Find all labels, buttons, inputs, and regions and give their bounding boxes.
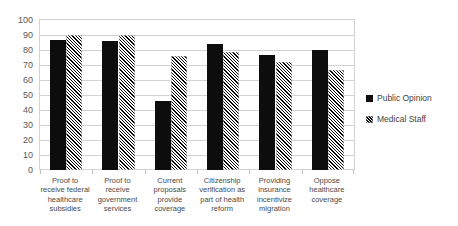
legend-item: Medical Staff	[366, 114, 458, 124]
solid-square-icon	[366, 95, 373, 102]
bar-medical-staff	[171, 56, 187, 170]
category-label: Citizenship verification as part of heal…	[197, 176, 247, 214]
y-axis-tick-label: 20	[23, 136, 33, 145]
x-axis-tick	[40, 170, 41, 174]
bar-medical-staff	[328, 70, 344, 171]
bar-public-opinion	[50, 40, 66, 171]
bar-groups	[40, 20, 354, 170]
y-axis-tick-label: 30	[23, 121, 33, 130]
y-axis-tick-label: 70	[23, 61, 33, 70]
y-axis-tick-label: 0	[28, 166, 33, 175]
category-label: Proof to receive federal healthcare subs…	[40, 176, 90, 214]
y-axis-tick-label: 90	[23, 31, 33, 40]
x-axis-tick	[145, 170, 146, 174]
y-axis-tick-label: 60	[23, 76, 33, 85]
bar-group	[302, 20, 354, 170]
y-axis-tick-label: 80	[23, 46, 33, 55]
x-axis-tick	[353, 170, 354, 174]
bar-group	[145, 20, 197, 170]
x-axis-tick	[197, 170, 198, 174]
x-axis-tick	[249, 170, 250, 174]
x-axis-category-labels: Proof to receive federal healthcare subs…	[39, 176, 355, 226]
bar-medical-staff	[119, 35, 135, 170]
bar-public-opinion	[207, 44, 223, 170]
x-axis-tick	[92, 170, 93, 174]
y-axis-tick-label: 100	[18, 16, 33, 25]
legend-item: Public Opinion	[366, 93, 458, 103]
bar-group	[40, 20, 92, 170]
category-label: Oppose healthcare coverage	[302, 176, 352, 204]
legend-item-label: Medical Staff	[377, 115, 426, 124]
bar-group	[92, 20, 144, 170]
legend-item-label: Public Opinion	[377, 94, 432, 103]
category-label: Providing insurance incentivize migratio…	[249, 176, 299, 214]
y-axis: 1009080706050403020100	[0, 0, 36, 190]
y-axis-tick-label: 50	[23, 91, 33, 100]
x-axis-ticks	[40, 170, 354, 175]
hatched-square-icon	[366, 116, 373, 123]
bar-public-opinion	[155, 101, 171, 170]
bar-public-opinion	[259, 55, 275, 171]
bar-medical-staff	[223, 52, 239, 171]
bar-group	[197, 20, 249, 170]
category-label: Current proposals provide coverage	[145, 176, 195, 214]
chart-legend: Public OpinionMedical Staff	[366, 93, 458, 135]
bar-chart: 1009080706050403020100 Proof to receive …	[0, 0, 458, 226]
y-axis-tick-label: 40	[23, 106, 33, 115]
bar-medical-staff	[66, 35, 82, 170]
bar-public-opinion	[102, 41, 118, 170]
y-axis-tick-label: 10	[23, 151, 33, 160]
bar-public-opinion	[312, 50, 328, 170]
x-axis-tick	[302, 170, 303, 174]
category-label: Proof to receive government services	[92, 176, 142, 214]
bar-group	[249, 20, 301, 170]
bar-medical-staff	[276, 62, 292, 170]
